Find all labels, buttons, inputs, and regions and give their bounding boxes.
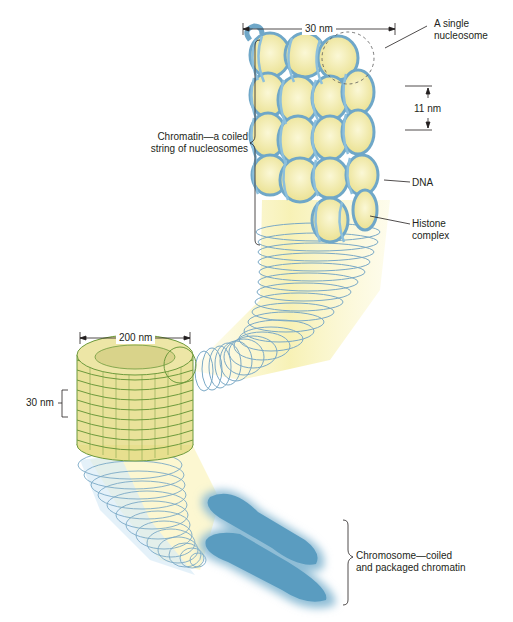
label-chromatin: Chromatin—a coiled string of nucleosomes <box>150 131 248 155</box>
label-line: Histone <box>412 218 449 230</box>
label-line: complex <box>412 230 449 242</box>
label-line: A single <box>434 18 488 30</box>
label-chromosome: Chromosome—coiled and packaged chromatin <box>356 550 466 574</box>
label-line: nucleosome <box>434 30 488 42</box>
label-single-nucleosome: A single nucleosome <box>434 18 488 42</box>
label-30nm-height: 30 nm <box>26 397 54 409</box>
label-line: and packaged chromatin <box>356 562 466 574</box>
label-11nm: 11 nm <box>414 103 441 115</box>
label-line: Chromatin—a coiled <box>150 131 248 143</box>
chromosome <box>199 490 335 608</box>
label-30nm-width: 30 nm <box>302 23 336 35</box>
label-line: string of nucleosomes <box>150 143 248 155</box>
label-histone-complex: Histone complex <box>412 218 449 242</box>
label-line: Chromosome—coiled <box>356 550 466 562</box>
label-dna: DNA <box>412 177 433 189</box>
label-200nm: 200 nm <box>116 332 155 344</box>
chromatin-diagram <box>0 0 513 622</box>
